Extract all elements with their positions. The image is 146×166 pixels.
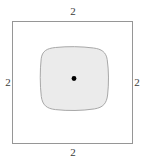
dimension-label-left: 2 — [2, 77, 14, 88]
dimension-label-top: 2 — [0, 6, 146, 17]
dimension-label-right: 2 — [131, 77, 143, 88]
center-dot — [72, 76, 77, 81]
geometry-figure: 2 2 2 2 — [0, 0, 146, 166]
dimension-label-bottom: 2 — [0, 147, 146, 158]
figure-canvas — [0, 0, 146, 166]
